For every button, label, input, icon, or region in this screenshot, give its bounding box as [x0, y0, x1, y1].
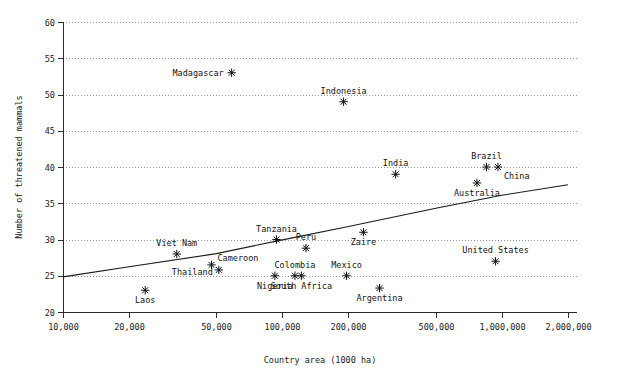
- data-point-label: Australia: [454, 188, 500, 198]
- x-axis-tick-label: 50,000: [201, 322, 232, 332]
- data-point-label: Peru: [296, 232, 316, 242]
- asterisk-marker: [482, 163, 490, 171]
- y-axis-tick-label: 30: [45, 235, 55, 245]
- chart-canvas: 20253035404550556010,00020,00050,000100,…: [0, 0, 623, 384]
- data-point[interactable]: Thailand: [172, 266, 223, 277]
- data-point[interactable]: Indonesia: [321, 86, 367, 106]
- data-point-label: Mexico: [331, 260, 362, 270]
- x-axis-tick-label: 20,000: [114, 322, 145, 332]
- data-point-label: South Africa: [271, 281, 332, 291]
- data-point[interactable]: Mexico: [331, 260, 362, 280]
- data-point[interactable]: Viet Nam: [156, 238, 197, 258]
- asterisk-marker: [302, 244, 310, 252]
- data-point-label: Madagascar: [172, 68, 223, 78]
- data-point[interactable]: Argentina: [356, 284, 402, 303]
- data-point[interactable]: Colombia: [274, 260, 315, 280]
- x-axis-tick-label: 200,000: [331, 322, 367, 332]
- y-axis-tick-label: 40: [45, 163, 55, 173]
- data-point-label: Zaire: [351, 237, 377, 247]
- data-point[interactable]: India: [383, 158, 409, 178]
- asterisk-marker: [227, 69, 235, 77]
- asterisk-marker: [375, 284, 383, 292]
- data-point[interactable]: South Africa: [271, 272, 332, 291]
- data-point-label: Viet Nam: [156, 238, 197, 248]
- asterisk-marker: [297, 272, 305, 280]
- asterisk-marker: [494, 163, 502, 171]
- x-axis-tick-label: 2,000,000: [545, 322, 591, 332]
- data-point-label: Brazil: [471, 151, 502, 161]
- x-axis-tick-label: 100,000: [265, 322, 301, 332]
- y-axis-tick-label: 45: [45, 126, 55, 136]
- asterisk-marker: [491, 257, 499, 265]
- y-axis-tick-label: 55: [45, 54, 55, 64]
- asterisk-marker: [141, 286, 149, 294]
- y-axis-tick-label: 25: [45, 271, 55, 281]
- data-point[interactable]: Cameroon: [207, 253, 258, 269]
- data-point[interactable]: Madagascar: [172, 68, 235, 78]
- data-point[interactable]: United States: [462, 245, 529, 265]
- data-point-label: India: [383, 158, 409, 168]
- data-point-label: Argentina: [356, 293, 402, 303]
- asterisk-marker: [391, 170, 399, 178]
- data-point-label: Thailand: [172, 267, 213, 277]
- x-axis-tick-label: 500,000: [419, 322, 455, 332]
- y-axis-tick-label: 60: [45, 18, 55, 28]
- asterisk-marker: [215, 266, 223, 274]
- asterisk-marker: [473, 179, 481, 187]
- data-point-label: Laos: [135, 295, 155, 305]
- data-point-label: China: [504, 171, 530, 181]
- data-point-label: Indonesia: [321, 86, 367, 96]
- data-point-label: Cameroon: [217, 253, 258, 263]
- data-point[interactable]: Zaire: [351, 228, 377, 247]
- data-point[interactable]: Peru: [296, 232, 316, 252]
- asterisk-marker: [342, 272, 350, 280]
- data-point[interactable]: Australia: [454, 179, 500, 198]
- y-axis-tick-label: 35: [45, 199, 55, 209]
- asterisk-marker: [271, 272, 279, 280]
- data-point[interactable]: Laos: [135, 286, 155, 305]
- data-point-label: Tanzania: [256, 224, 297, 234]
- data-point[interactable]: Tanzania: [256, 224, 297, 244]
- scatter-chart: 20253035404550556010,00020,00050,000100,…: [0, 0, 623, 384]
- asterisk-marker: [339, 98, 347, 106]
- asterisk-marker: [359, 228, 367, 236]
- data-point[interactable]: China: [494, 163, 530, 181]
- y-axis-tick-label: 20: [45, 308, 55, 318]
- data-point-label: United States: [462, 245, 529, 255]
- asterisk-marker: [272, 235, 280, 243]
- x-axis-tick-label: 1,000,000: [479, 322, 525, 332]
- y-axis-title: Number of threatened mammals: [14, 95, 24, 238]
- y-axis-tick-label: 50: [45, 90, 55, 100]
- asterisk-marker: [173, 250, 181, 258]
- x-axis-title: Country area (1000 ha): [264, 355, 377, 365]
- data-point-label: Colombia: [274, 260, 315, 270]
- trend-line: [63, 185, 568, 277]
- x-axis-tick-label: 10,000: [48, 322, 79, 332]
